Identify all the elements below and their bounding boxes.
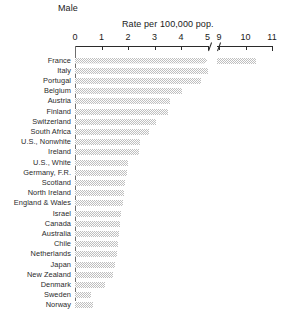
bar — [75, 170, 127, 176]
chart-row: Chile — [0, 239, 288, 249]
category-label: France — [0, 56, 71, 66]
chart-row: Canada — [0, 219, 288, 229]
bar-segment-left — [75, 58, 208, 64]
male-mortality-rate-bar-chart: Male Rate per 100,000 pop. 01234591011 F… — [0, 0, 288, 314]
chart-row: France — [0, 56, 288, 66]
category-label: Chile — [0, 239, 71, 249]
bar — [75, 292, 91, 298]
bar — [75, 78, 201, 84]
chart-row: Finland — [0, 107, 288, 117]
category-label: Ireland — [0, 147, 71, 157]
bar — [75, 129, 149, 135]
chart-row: Austria — [0, 96, 288, 106]
bar — [75, 98, 170, 104]
chart-row: Ireland — [0, 147, 288, 157]
chart-row: U.S., White — [0, 158, 288, 168]
bar — [75, 221, 120, 227]
category-label: New Zealand — [0, 270, 71, 280]
chart-row: Israel — [0, 209, 288, 219]
category-label: U.S., White — [0, 158, 71, 168]
category-label: Switzerland — [0, 117, 71, 127]
bar — [75, 190, 124, 196]
bar — [75, 200, 123, 206]
chart-row: Sweden — [0, 290, 288, 300]
chart-row: Norway — [0, 300, 288, 310]
chart-row: Denmark — [0, 280, 288, 290]
category-label: Netherlands — [0, 249, 71, 259]
chart-row: Switzerland — [0, 117, 288, 127]
chart-row: U.S., Nonwhite — [0, 137, 288, 147]
bar — [75, 68, 208, 74]
bar — [75, 262, 115, 268]
category-label: Finland — [0, 107, 71, 117]
bar — [75, 231, 119, 237]
bar-rows: FranceItalyPortugalBelgiumAustriaFinland… — [0, 0, 288, 314]
category-label: Israel — [0, 209, 71, 219]
category-label: Norway — [0, 300, 71, 310]
category-label: South Africa — [0, 127, 71, 137]
category-label: Denmark — [0, 280, 71, 290]
chart-row: Portugal — [0, 76, 288, 86]
category-label: Sweden — [0, 290, 71, 300]
chart-row: Japan — [0, 260, 288, 270]
category-label: Australia — [0, 229, 71, 239]
bar — [75, 180, 125, 186]
bar — [75, 160, 128, 166]
chart-row: Australia — [0, 229, 288, 239]
chart-row: England & Wales — [0, 198, 288, 208]
chart-row: South Africa — [0, 127, 288, 137]
chart-row: Belgium — [0, 86, 288, 96]
category-label: Scotland — [0, 178, 71, 188]
bar — [75, 149, 139, 155]
chart-row: Germany, F.R. — [0, 168, 288, 178]
category-label: Germany, F.R. — [0, 168, 71, 178]
chart-row: North Ireland — [0, 188, 288, 198]
bar — [75, 282, 105, 288]
category-label: Italy — [0, 66, 71, 76]
chart-row: New Zealand — [0, 270, 288, 280]
category-label: Portugal — [0, 76, 71, 86]
category-label: North Ireland — [0, 188, 71, 198]
bar — [75, 302, 93, 308]
bar — [75, 139, 140, 145]
category-label: England & Wales — [0, 198, 71, 208]
bar — [75, 211, 121, 217]
category-label: Belgium — [0, 86, 71, 96]
chart-row: Netherlands — [0, 249, 288, 259]
bar — [75, 119, 156, 125]
bar — [75, 251, 117, 257]
category-label: Austria — [0, 96, 71, 106]
bar — [75, 109, 168, 115]
bar — [75, 272, 113, 278]
chart-row: Scotland — [0, 178, 288, 188]
chart-row: Italy — [0, 66, 288, 76]
bar — [75, 241, 118, 247]
category-label: Canada — [0, 219, 71, 229]
category-label: U.S., Nonwhite — [0, 137, 71, 147]
bar — [75, 88, 182, 94]
bar-segment-right — [217, 58, 256, 64]
category-label: Japan — [0, 260, 71, 270]
